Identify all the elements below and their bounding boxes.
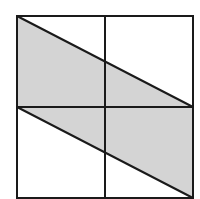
- quadrant-square-diagram: [0, 0, 200, 199]
